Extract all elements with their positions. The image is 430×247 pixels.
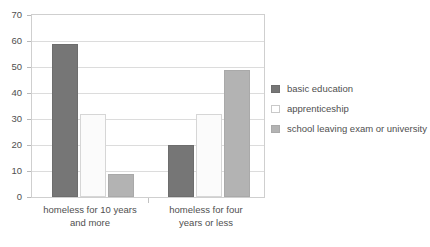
legend-item-apprenticeship[interactable]: apprenticeship: [271, 99, 429, 119]
legend-label: school leaving exam or university: [287, 124, 427, 134]
y-tick-label: 70: [11, 10, 22, 20]
y-tick-label: 60: [11, 36, 22, 46]
y-tick-label: 50: [11, 62, 22, 72]
y-tick-label: 40: [11, 88, 22, 98]
legend-item-basic-education[interactable]: basic education: [271, 79, 429, 99]
legend-swatch-school-leaving-exam-icon: [271, 125, 280, 133]
x-axis-label-line: years or less: [136, 216, 276, 229]
bar-basic-education-group-1: [52, 44, 78, 197]
legend-swatch-basic-education-icon: [271, 85, 280, 93]
y-tick-label: 10: [11, 166, 22, 176]
legend-item-school-leaving-exam-or-university[interactable]: school leaving exam or university: [271, 119, 429, 139]
bar-chart: 010203040506070 homeless for 10 yearsand…: [0, 0, 430, 247]
y-tick-label: 30: [11, 114, 22, 124]
chart-legend: basic educationapprenticeshipschool leav…: [271, 79, 429, 139]
bar-school-leaving-exam-or-university-group-1: [108, 174, 134, 197]
x-axis-label-line: homeless for four: [136, 203, 276, 216]
bar-apprenticeship-group-1: [80, 114, 106, 197]
bar-basic-education-group-2: [168, 145, 194, 197]
x-axis-group-label: homeless for fouryears or less: [136, 203, 276, 229]
y-axis: 010203040506070: [0, 14, 27, 198]
legend-swatch-apprenticeship-icon: [271, 105, 280, 113]
y-tick-label: 20: [11, 140, 22, 150]
legend-label: apprenticeship: [287, 104, 349, 114]
bar-school-leaving-exam-or-university-group-2: [224, 70, 250, 197]
bar-apprenticeship-group-2: [196, 114, 222, 197]
y-tick-label: 0: [17, 192, 22, 202]
bars-layer: [32, 15, 264, 197]
legend-label: basic education: [287, 84, 353, 94]
